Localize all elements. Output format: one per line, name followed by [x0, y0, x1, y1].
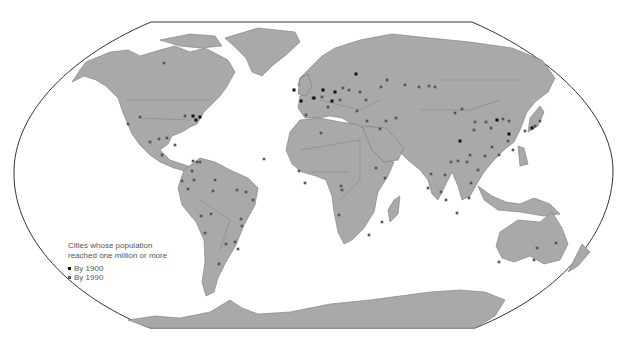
city-marker: [457, 160, 460, 163]
city-marker: [331, 100, 334, 103]
city-marker: [313, 97, 316, 100]
city-marker: [193, 179, 196, 182]
city-marker: [484, 155, 487, 158]
city-marker: [252, 199, 255, 202]
city-marker: [240, 218, 243, 221]
city-marker: [404, 84, 407, 87]
legend-title: Cities whose population reached one mill…: [68, 241, 167, 261]
city-marker: [366, 120, 369, 123]
city-marker: [298, 170, 301, 173]
city-marker: [166, 137, 169, 140]
world-map: [0, 0, 622, 342]
city-marker: [384, 177, 387, 180]
city-marker: [199, 161, 202, 164]
city-marker: [234, 241, 237, 244]
city-marker: [187, 188, 190, 191]
city-marker: [359, 91, 362, 94]
square-marker-icon: [68, 267, 71, 270]
city-marker: [174, 144, 177, 147]
city-marker: [218, 263, 221, 266]
city-marker: [237, 248, 240, 251]
city-marker: [507, 140, 510, 143]
land-masses: [72, 28, 590, 328]
city-marker: [161, 154, 164, 157]
antarctica: [128, 290, 505, 328]
city-marker: [199, 116, 202, 119]
city-marker: [192, 160, 195, 163]
city-marker: [524, 130, 527, 133]
city-marker: [321, 96, 324, 99]
city-marker: [340, 185, 343, 188]
city-marker: [191, 170, 194, 173]
city-marker: [418, 86, 421, 89]
city-marker: [534, 125, 537, 128]
legend-item-1990: By 1990: [68, 273, 167, 282]
madagascar: [388, 196, 400, 222]
city-marker: [491, 146, 494, 149]
city-marker: [192, 115, 195, 118]
city-marker: [473, 129, 476, 132]
greenland: [225, 28, 300, 76]
city-marker: [368, 234, 371, 237]
city-marker: [474, 121, 477, 124]
city-marker: [200, 215, 203, 218]
city-marker: [342, 87, 345, 90]
city-marker: [339, 99, 342, 102]
philippines: [518, 146, 528, 166]
city-marker: [485, 121, 488, 124]
city-marker: [508, 120, 511, 123]
north-america: [72, 46, 235, 172]
city-marker: [444, 174, 447, 177]
south-america: [178, 158, 258, 296]
city-marker: [355, 73, 358, 76]
city-marker: [236, 189, 239, 192]
city-marker: [245, 191, 248, 194]
city-marker: [305, 114, 308, 117]
city-marker: [375, 167, 378, 170]
city-marker: [320, 132, 323, 135]
city-marker: [380, 86, 383, 89]
city-marker: [322, 89, 325, 92]
city-marker: [385, 120, 388, 123]
city-marker: [440, 191, 443, 194]
city-marker: [210, 213, 213, 216]
city-marker: [139, 116, 142, 119]
city-marker: [263, 158, 266, 161]
city-marker: [379, 128, 382, 131]
city-marker: [181, 180, 184, 183]
map-legend: Cities whose population reached one mill…: [68, 241, 167, 282]
city-marker: [204, 232, 207, 235]
city-marker: [555, 242, 558, 245]
city-marker: [149, 141, 152, 144]
square-marker-icon: [68, 276, 71, 279]
city-marker: [365, 99, 368, 102]
city-marker: [356, 110, 359, 113]
city-marker: [539, 120, 542, 123]
city-marker: [293, 89, 296, 92]
city-marker: [158, 138, 161, 141]
city-marker: [327, 106, 330, 109]
city-marker: [241, 225, 244, 228]
city-marker: [470, 182, 473, 185]
city-marker: [434, 86, 437, 89]
city-marker: [338, 214, 341, 217]
city-marker: [461, 108, 464, 111]
city-marker: [184, 115, 187, 118]
city-marker: [490, 127, 493, 130]
city-marker: [304, 182, 307, 185]
city-marker: [212, 190, 215, 193]
city-marker: [508, 133, 511, 136]
city-marker: [502, 118, 505, 121]
city-marker: [348, 89, 351, 92]
new-zealand: [568, 244, 590, 272]
city-marker: [498, 261, 501, 264]
city-marker: [386, 79, 389, 82]
city-marker: [466, 161, 469, 164]
indonesia: [478, 186, 560, 216]
city-marker: [395, 117, 398, 120]
city-marker: [334, 91, 337, 94]
city-marker: [454, 112, 457, 115]
city-marker: [427, 187, 430, 190]
city-marker: [533, 259, 536, 262]
city-marker: [225, 243, 228, 246]
